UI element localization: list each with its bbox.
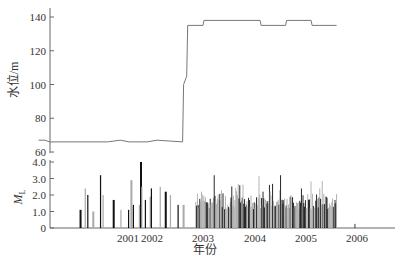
svg-text:120: 120 — [30, 45, 47, 57]
x-axis-title: 年份 — [193, 243, 217, 257]
bottom-y-ticks: 01.02.03.04.0 — [32, 156, 54, 234]
svg-text:100: 100 — [30, 79, 47, 91]
svg-text:4.0: 4.0 — [32, 156, 46, 168]
bottom-y-axis-title: ML — [11, 189, 27, 205]
top-panel: 6080100120140 水位/m — [6, 8, 337, 158]
svg-text:2006: 2006 — [346, 232, 369, 244]
svg-text:0: 0 — [41, 222, 47, 234]
svg-text:2002: 2002 — [141, 232, 163, 244]
top-y-axis-title: 水位/m — [6, 61, 21, 98]
svg-text:2001: 2001 — [117, 232, 139, 244]
svg-text:80: 80 — [35, 112, 47, 124]
svg-text:2005: 2005 — [295, 232, 318, 244]
svg-text:3.0: 3.0 — [32, 173, 46, 185]
bottom-panel: 01.02.03.04.0 200120022003200420052006 M… — [11, 156, 395, 257]
x-ticks: 200120022003200420052006 — [117, 232, 369, 244]
svg-text:1.0: 1.0 — [32, 206, 46, 218]
water-level-line — [39, 20, 337, 141]
svg-text:2004: 2004 — [244, 232, 267, 244]
svg-text:140: 140 — [30, 11, 47, 23]
magnitude-bars — [80, 162, 356, 228]
chart: 6080100120140 水位/m 01.02.03.04.0 2001200… — [0, 0, 419, 262]
svg-text:2.0: 2.0 — [32, 189, 46, 201]
